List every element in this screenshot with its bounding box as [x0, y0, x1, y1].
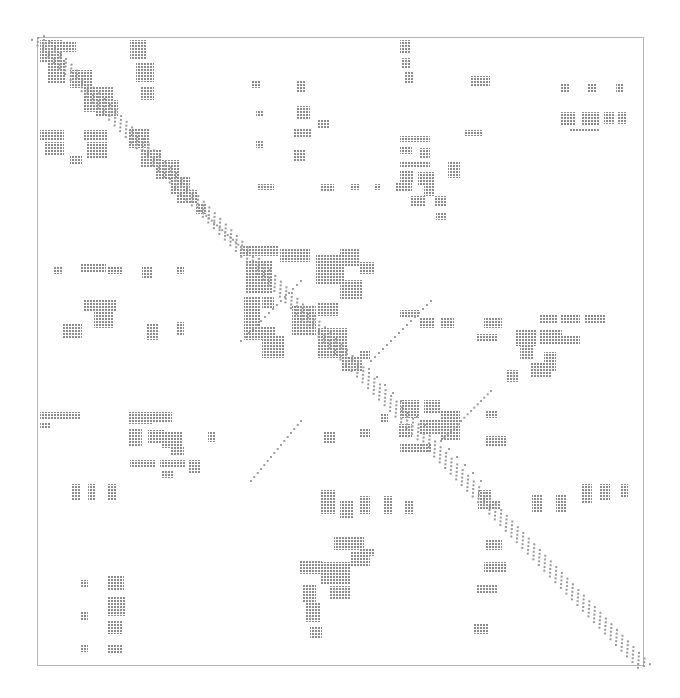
nonzero-block — [588, 84, 596, 92]
nonzero-block — [176, 266, 184, 274]
nonzero-block — [486, 436, 506, 446]
nonzero-block — [80, 644, 88, 652]
nonzero-block — [54, 266, 62, 274]
nonzero-block — [404, 72, 414, 84]
nonzero-block — [72, 484, 80, 500]
nonzero-block — [340, 280, 362, 300]
nonzero-block — [310, 626, 322, 638]
nonzero-block — [128, 412, 152, 424]
nonzero-block — [418, 172, 434, 186]
nonzero-block — [400, 40, 410, 54]
nonzero-block — [604, 112, 614, 124]
nonzero-block — [146, 324, 158, 340]
nonzero-block — [334, 536, 364, 550]
nonzero-block — [556, 494, 566, 512]
nonzero-block — [140, 86, 154, 100]
nonzero-block — [476, 334, 498, 342]
nonzero-block — [340, 248, 360, 266]
nonzero-block — [130, 40, 146, 60]
nonzero-block — [148, 430, 164, 444]
nonzero-block — [294, 150, 306, 162]
nonzero-block — [80, 612, 88, 620]
nonzero-block — [560, 84, 570, 92]
nonzero-block — [570, 128, 600, 132]
nonzero-block — [396, 182, 412, 192]
nonzero-block — [306, 602, 320, 622]
nonzero-block — [40, 130, 64, 140]
nonzero-block — [94, 312, 114, 328]
nonzero-block — [544, 352, 556, 372]
nonzero-block — [320, 184, 334, 192]
nonzero-block — [152, 412, 172, 422]
nonzero-block — [318, 120, 330, 128]
nonzero-block — [448, 162, 460, 178]
nonzero-block — [350, 184, 360, 190]
nonzero-block — [410, 196, 426, 206]
nonzero-block — [320, 562, 350, 584]
nonzero-block — [474, 624, 488, 634]
nonzero-block — [256, 110, 264, 116]
nonzero-block — [40, 422, 50, 428]
nonzero-block — [108, 596, 126, 616]
nonzero-block — [160, 460, 186, 468]
nonzero-block — [402, 58, 410, 68]
nonzero-block — [436, 212, 446, 220]
nonzero-block — [170, 446, 184, 456]
nonzero-block — [44, 142, 64, 156]
nonzero-block — [398, 424, 412, 438]
nonzero-block — [62, 324, 82, 338]
nonzero-block — [560, 112, 576, 126]
nonzero-block — [532, 494, 542, 512]
nonzero-block — [48, 60, 66, 84]
nonzero-block — [318, 328, 348, 358]
nonzero-block — [84, 130, 108, 140]
nonzero-block — [380, 414, 388, 422]
nonzero-block — [162, 432, 182, 448]
nonzero-block — [600, 484, 610, 500]
nonzero-block — [560, 314, 580, 324]
nonzero-block — [420, 148, 430, 158]
nonzero-block — [540, 330, 562, 344]
nonzero-block — [108, 266, 122, 274]
nonzero-block — [400, 170, 414, 182]
spy-plot — [0, 0, 680, 698]
nonzero-block — [520, 346, 534, 360]
nonzero-block — [440, 318, 454, 328]
nonzero-block — [584, 314, 606, 324]
nonzero-block — [208, 432, 216, 442]
nonzero-block — [476, 584, 498, 594]
nonzero-block — [86, 142, 108, 158]
nonzero-block — [360, 496, 370, 514]
nonzero-block — [258, 184, 274, 190]
nonzero-block — [404, 500, 414, 514]
nonzero-block — [108, 484, 116, 500]
nonzero-block — [296, 80, 306, 92]
nonzero-block — [400, 310, 420, 318]
nonzero-block — [256, 140, 264, 148]
nonzero-block — [142, 266, 152, 278]
nonzero-block — [240, 246, 278, 256]
nonzero-block — [506, 370, 518, 382]
nonzero-block — [400, 162, 430, 168]
nonzero-block — [318, 302, 338, 316]
nonzero-block — [62, 42, 76, 52]
nonzero-block — [486, 540, 502, 550]
nonzero-block — [108, 620, 122, 634]
nonzero-block — [464, 130, 482, 136]
nonzero-block — [84, 300, 116, 312]
nonzero-block — [300, 560, 322, 574]
nonzero-block — [128, 428, 142, 446]
nonzero-block — [244, 296, 260, 326]
nonzero-block — [420, 318, 434, 328]
nonzero-block — [540, 314, 558, 324]
nonzero-block — [262, 296, 274, 308]
nonzero-block — [330, 586, 350, 600]
nonzero-block — [246, 260, 272, 294]
nonzero-block — [434, 196, 446, 206]
nonzero-block — [262, 336, 284, 358]
nonzero-block — [70, 156, 82, 164]
nonzero-block — [374, 184, 380, 190]
nonzero-block — [80, 580, 88, 588]
nonzero-block — [324, 432, 336, 444]
nonzero-block — [320, 490, 336, 514]
